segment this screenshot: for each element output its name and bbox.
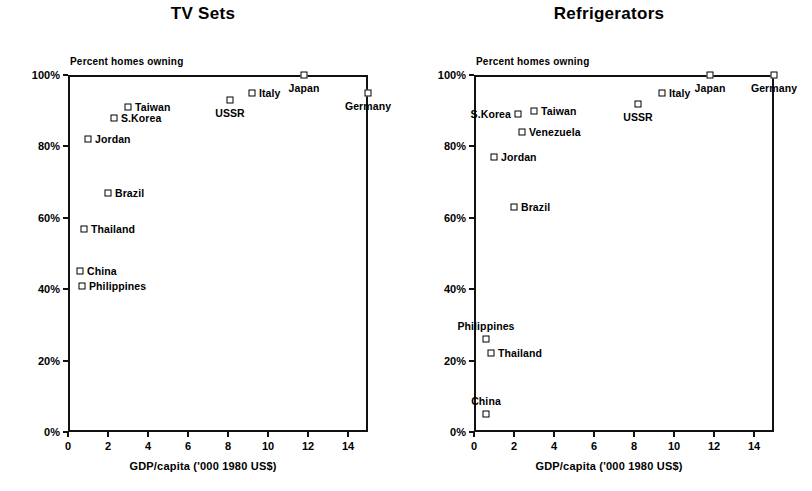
y-tick-mark — [63, 74, 68, 76]
data-point-label: USSR — [623, 111, 653, 123]
x-tick-mark — [553, 432, 555, 437]
chart-panel-tv-sets: TV Sets Percent homes owning 0%20%40%60%… — [0, 0, 406, 491]
data-point-marker — [491, 154, 498, 161]
x-tick-label: 6 — [591, 440, 597, 452]
y-tick-mark — [469, 74, 474, 76]
x-tick-label: 6 — [185, 440, 191, 452]
data-point-label: Japan — [695, 82, 726, 94]
data-point-marker — [249, 89, 256, 96]
data-point-label: Taiwan — [541, 105, 576, 117]
data-point-label: Italy — [669, 87, 691, 99]
x-tick-mark — [753, 432, 755, 437]
data-point-marker — [771, 72, 778, 79]
x-tick-mark — [67, 432, 69, 437]
x-tick-label: 10 — [668, 440, 680, 452]
y-tick-label: 20% — [406, 355, 466, 367]
data-point-marker — [105, 189, 112, 196]
x-tick-label: 2 — [105, 440, 111, 452]
x-tick-label: 14 — [342, 440, 354, 452]
data-point-marker — [483, 336, 490, 343]
y-tick-mark — [469, 288, 474, 290]
y-tick-label: 100% — [0, 69, 60, 81]
x-tick-label: 4 — [145, 440, 151, 452]
data-point-label: Venezuela — [529, 126, 581, 138]
x-tick-label: 0 — [471, 440, 477, 452]
data-point-label: China — [87, 265, 117, 277]
data-point-label: Italy — [259, 87, 281, 99]
x-tick-label: 12 — [302, 440, 314, 452]
x-tick-mark — [473, 432, 475, 437]
x-tick-mark — [187, 432, 189, 437]
x-axis-title-tv-sets: GDP/capita ('000 1980 US$) — [0, 460, 406, 472]
data-point-label: Japan — [289, 82, 320, 94]
data-point-label: S.Korea — [471, 108, 511, 120]
x-tick-label: 0 — [65, 440, 71, 452]
y-tick-label: 100% — [406, 69, 466, 81]
x-tick-mark — [267, 432, 269, 437]
data-point-marker — [531, 107, 538, 114]
data-point-label: Philippines — [457, 320, 514, 332]
data-point-marker — [81, 225, 88, 232]
y-tick-mark — [469, 145, 474, 147]
data-point-marker — [519, 129, 526, 136]
data-point-marker — [227, 96, 234, 103]
data-point-label: USSR — [215, 107, 245, 119]
y-tick-mark — [469, 217, 474, 219]
data-point-label: Brazil — [115, 187, 144, 199]
x-axis-title-refrigerators: GDP/capita ('000 1980 US$) — [406, 460, 812, 472]
x-tick-mark — [347, 432, 349, 437]
y-tick-label: 80% — [0, 140, 60, 152]
y-tick-label: 20% — [0, 355, 60, 367]
data-point-label: China — [471, 395, 501, 407]
y-tick-mark — [469, 360, 474, 362]
x-tick-mark — [307, 432, 309, 437]
y-tick-label: 60% — [406, 212, 466, 224]
data-point-label: Germany — [345, 100, 391, 112]
y-tick-mark — [63, 360, 68, 362]
data-point-marker — [635, 100, 642, 107]
data-point-label: Philippines — [89, 280, 146, 292]
y-tick-label: 0% — [406, 426, 466, 438]
y-tick-label: 60% — [0, 212, 60, 224]
x-tick-label: 10 — [262, 440, 274, 452]
x-tick-mark — [713, 432, 715, 437]
data-point-marker — [488, 350, 495, 357]
x-tick-mark — [147, 432, 149, 437]
data-point-marker — [125, 104, 132, 111]
x-tick-mark — [513, 432, 515, 437]
data-point-label: S.Korea — [121, 112, 161, 124]
plot-frame-tv-sets — [68, 75, 368, 432]
data-point-marker — [659, 89, 666, 96]
x-tick-mark — [227, 432, 229, 437]
chart-panel-refrigerators: Refrigerators Percent homes owning 0%20%… — [406, 0, 812, 491]
data-point-marker — [483, 411, 490, 418]
data-point-label: Thailand — [91, 223, 135, 235]
y-tick-label: 40% — [0, 283, 60, 295]
data-point-marker — [111, 114, 118, 121]
x-tick-mark — [593, 432, 595, 437]
data-point-marker — [365, 89, 372, 96]
chart-title-refrigerators: Refrigerators — [406, 4, 812, 24]
y-tick-mark — [63, 217, 68, 219]
data-point-label: Jordan — [95, 133, 131, 145]
y-tick-mark — [63, 145, 68, 147]
y-tick-label: 80% — [406, 140, 466, 152]
data-point-label: Brazil — [521, 201, 550, 213]
y-axis-title-tv-sets: Percent homes owning — [70, 56, 183, 67]
scatter-figure-pair: TV Sets Percent homes owning 0%20%40%60%… — [0, 0, 812, 491]
data-point-label: Germany — [751, 82, 797, 94]
x-tick-label: 8 — [225, 440, 231, 452]
chart-title-tv-sets: TV Sets — [0, 4, 406, 24]
data-point-marker — [85, 136, 92, 143]
data-point-marker — [511, 204, 518, 211]
x-tick-label: 2 — [511, 440, 517, 452]
data-point-marker — [79, 282, 86, 289]
y-axis-title-refrigerators: Percent homes owning — [476, 56, 589, 67]
x-tick-mark — [673, 432, 675, 437]
x-tick-label: 8 — [631, 440, 637, 452]
x-tick-label: 4 — [551, 440, 557, 452]
x-tick-label: 12 — [708, 440, 720, 452]
data-point-marker — [301, 72, 308, 79]
data-point-label: Jordan — [501, 151, 537, 163]
x-tick-mark — [107, 432, 109, 437]
